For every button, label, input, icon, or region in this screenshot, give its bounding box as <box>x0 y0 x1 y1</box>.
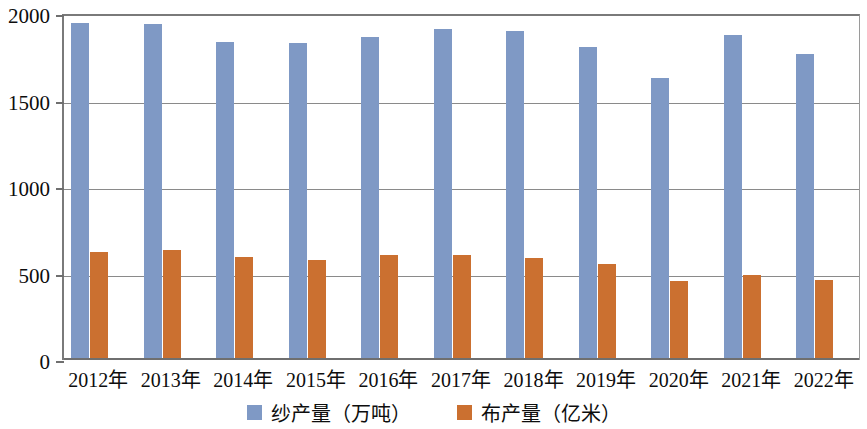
bar <box>651 78 669 360</box>
y-tick-label: 1500 <box>8 90 50 115</box>
x-axis-label: 2013年 <box>141 364 201 393</box>
legend-label: 布产量（亿米） <box>481 398 621 427</box>
bar-group <box>717 16 790 360</box>
bar <box>90 252 108 360</box>
bar <box>434 29 452 360</box>
chart-legend: 纱产量（万吨）布产量（亿米） <box>0 398 867 427</box>
y-tick-label: 1000 <box>8 177 50 202</box>
y-tick-label: 2000 <box>8 4 50 29</box>
x-axis-label: 2012年 <box>68 364 128 393</box>
bar-group <box>644 16 717 360</box>
x-axis-labels: 2012年2013年2014年2015年2016年2017年2018年2019年… <box>62 362 860 392</box>
x-axis-label: 2017年 <box>431 364 491 393</box>
plot-area: 0500100015002000 <box>62 14 860 360</box>
bar-group <box>572 16 645 360</box>
bar-chart: 0500100015002000 2012年2013年2014年2015年201… <box>0 0 867 429</box>
bar <box>525 258 543 360</box>
x-axis-label: 2020年 <box>649 364 709 393</box>
bar <box>506 31 524 360</box>
bars-layer <box>64 16 859 360</box>
bar <box>144 24 162 360</box>
bar <box>743 275 761 360</box>
bar <box>235 257 253 360</box>
x-axis-line <box>64 358 859 360</box>
x-axis-label: 2014年 <box>213 364 273 393</box>
bar <box>216 42 234 360</box>
bar-group <box>282 16 355 360</box>
x-axis-label: 2016年 <box>358 364 418 393</box>
bar-group <box>64 16 137 360</box>
x-axis-label: 2015年 <box>286 364 346 393</box>
x-axis-label: 2018年 <box>504 364 564 393</box>
bar <box>598 264 616 360</box>
legend-label: 纱产量（万吨） <box>271 398 411 427</box>
bar <box>579 47 597 360</box>
y-tick-label: 500 <box>19 263 51 288</box>
bar-group <box>499 16 572 360</box>
bar <box>815 280 833 360</box>
y-tick-label: 0 <box>40 350 51 375</box>
bar <box>361 37 379 361</box>
bar <box>308 260 326 360</box>
bar-group <box>209 16 282 360</box>
legend-item: 纱产量（万吨） <box>247 398 411 427</box>
x-axis-label: 2022年 <box>794 364 854 393</box>
bar <box>724 35 742 360</box>
bar <box>71 23 89 360</box>
x-axis-label: 2019年 <box>576 364 636 393</box>
bar-group <box>427 16 500 360</box>
x-axis-label: 2021年 <box>721 364 781 393</box>
bar-group <box>354 16 427 360</box>
y-tick-mark <box>56 188 64 190</box>
y-tick-mark <box>56 102 64 104</box>
bar <box>453 255 471 360</box>
y-tick-mark <box>56 15 64 17</box>
bar <box>163 250 181 360</box>
legend-swatch-cloth <box>457 405 472 420</box>
legend-item: 布产量（亿米） <box>457 398 621 427</box>
bar <box>670 281 688 360</box>
bar-group <box>137 16 210 360</box>
bar <box>380 255 398 360</box>
y-tick-mark <box>56 275 64 277</box>
bar <box>796 54 814 360</box>
legend-swatch-yarn <box>247 405 262 420</box>
bar-group <box>789 16 862 360</box>
bar <box>289 43 307 360</box>
